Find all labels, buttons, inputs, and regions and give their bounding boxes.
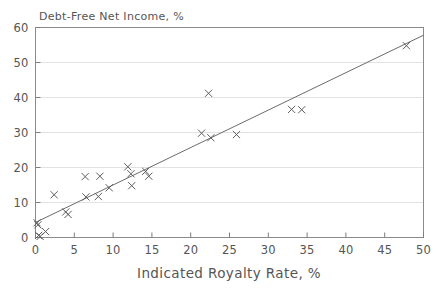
x-axis-title: Indicated Royalty Rate, % [137, 265, 321, 281]
trend-line [36, 35, 424, 222]
data-point [298, 106, 305, 113]
scatter-chart-figure: 0102030405060 05101520253035404550 Debt-… [0, 0, 444, 292]
chart-title: Debt-Free Net Income, % [39, 10, 184, 23]
x-tick-label: 15 [144, 243, 159, 257]
data-point [124, 163, 131, 170]
x-tick-label: 50 [416, 243, 431, 257]
y-tick-label: 40 [13, 91, 28, 105]
data-point [64, 211, 71, 218]
y-tick-label: 30 [13, 126, 28, 140]
x-tick-label: 0 [32, 243, 40, 257]
y-axis-tick-labels: 0102030405060 [13, 21, 28, 245]
x-tick-label: 20 [183, 243, 198, 257]
data-point [51, 191, 58, 198]
data-point [207, 134, 214, 141]
x-tick-label: 25 [222, 243, 237, 257]
chart-canvas: 0102030405060 05101520253035404550 Debt-… [0, 0, 444, 292]
horizontal-gridlines [36, 63, 424, 203]
x-axis-tickmarks [36, 233, 424, 238]
x-tick-label: 40 [338, 243, 353, 257]
y-axis-tickmarks [36, 28, 41, 238]
data-point-markers [33, 42, 410, 240]
data-point [128, 182, 135, 189]
x-tick-label: 35 [300, 243, 315, 257]
data-point [145, 173, 152, 180]
x-tick-label: 10 [106, 243, 121, 257]
x-tick-label: 30 [261, 243, 276, 257]
y-tick-label: 60 [13, 21, 28, 35]
data-point [198, 130, 205, 137]
y-tick-label: 10 [13, 196, 28, 210]
y-tick-label: 0 [21, 231, 29, 245]
data-point [42, 228, 49, 235]
data-point [96, 173, 103, 180]
x-tick-label: 45 [377, 243, 392, 257]
data-point [82, 173, 89, 180]
data-point [95, 193, 102, 200]
x-tick-label: 5 [71, 243, 79, 257]
data-point [288, 106, 295, 113]
y-tick-label: 20 [13, 161, 28, 175]
data-point [205, 90, 212, 97]
x-axis-tick-labels: 05101520253035404550 [32, 243, 431, 257]
y-tick-label: 50 [13, 56, 28, 70]
